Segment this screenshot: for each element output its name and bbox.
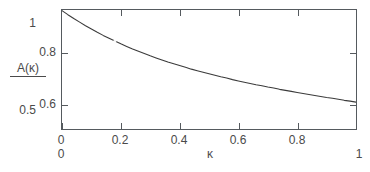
x-tick-mark-top-04 bbox=[180, 10, 181, 16]
x-tick-mark-top-06 bbox=[239, 10, 240, 16]
x-tick-mark-06 bbox=[239, 123, 240, 129]
x-tick-label-06: 0.6 bbox=[218, 134, 258, 146]
y-tick-mark-06 bbox=[62, 105, 68, 106]
curve-svg bbox=[62, 10, 356, 129]
y-axis-label: A(κ) bbox=[6, 62, 50, 77]
x-tick-mark-top-02 bbox=[121, 10, 122, 16]
y-tick-mark-right-08 bbox=[350, 53, 356, 54]
x-tick-label-04: 0.4 bbox=[159, 134, 199, 146]
x-tick-label-outer-1: 1 bbox=[344, 148, 370, 160]
x-tick-mark-04 bbox=[180, 123, 181, 129]
x-axis-label: κ bbox=[190, 148, 230, 160]
figure-container: 1 0.5 A(κ) 0.8 0.6 0 0.2 0.4 0.6 0. bbox=[0, 0, 370, 172]
x-tick-label-02: 0.2 bbox=[100, 134, 140, 146]
curve-break-artifact bbox=[113, 39, 116, 42]
plot-area bbox=[61, 9, 357, 130]
y-tick-label-outer-1: 1 bbox=[8, 17, 36, 29]
x-tick-mark-00 bbox=[62, 123, 63, 129]
y-tick-label-08: 0.8 bbox=[22, 46, 56, 58]
x-tick-label-08: 0.8 bbox=[277, 134, 317, 146]
x-tick-mark-top-08 bbox=[298, 10, 299, 16]
x-tick-label-outer-0: 0 bbox=[46, 148, 76, 160]
data-series-curve bbox=[62, 11, 356, 103]
y-tick-mark-right-06 bbox=[350, 105, 356, 106]
x-tick-mark-02 bbox=[121, 123, 122, 129]
y-tick-label-06: 0.6 bbox=[22, 98, 56, 110]
y-axis-label-text: A(κ) bbox=[6, 62, 50, 75]
x-tick-label-00: 0 bbox=[41, 134, 81, 146]
y-axis-label-rule bbox=[10, 76, 46, 77]
y-tick-mark-08 bbox=[62, 53, 68, 54]
x-tick-mark-08 bbox=[298, 123, 299, 129]
